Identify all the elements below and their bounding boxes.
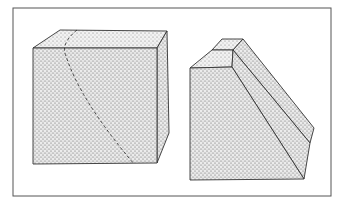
figure-diagram <box>0 0 347 202</box>
cube <box>33 30 169 164</box>
cube-front-face <box>33 48 157 164</box>
